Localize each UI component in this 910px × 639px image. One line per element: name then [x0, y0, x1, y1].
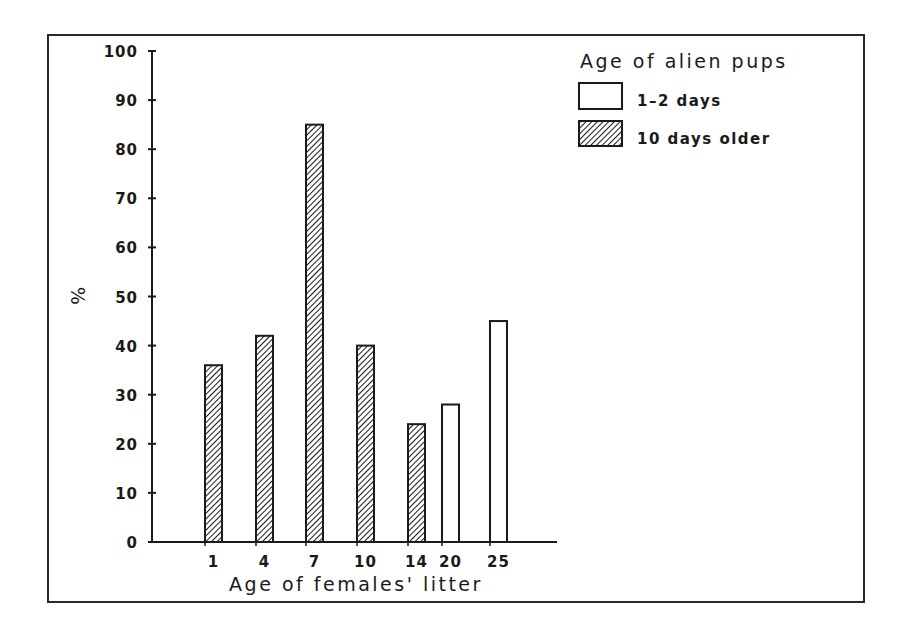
y-tick-label: 10 — [115, 485, 138, 503]
y-tick-label: 40 — [115, 338, 138, 356]
legend-label-hatched: 10 days older — [637, 130, 771, 148]
y-tick-label: 60 — [115, 239, 138, 257]
legend-swatch-hatched — [579, 121, 622, 146]
x-tick-label: 4 — [259, 553, 270, 571]
bar-25 — [490, 321, 507, 542]
x-tick-label: 7 — [309, 553, 320, 571]
y-tick-label: 80 — [115, 141, 138, 159]
legend-label-open: 1–2 days — [637, 92, 722, 110]
bar-1 — [205, 365, 222, 542]
x-tick-label: 1 — [208, 553, 219, 571]
y-tick-label: 70 — [115, 190, 138, 208]
y-tick-label: 90 — [115, 92, 138, 110]
x-axis-title: Age of females' litter — [229, 573, 483, 595]
y-tick-label: 50 — [115, 289, 138, 307]
legend: Age of alien pups 1–2 days 10 days older — [579, 50, 788, 148]
x-tick-label: 25 — [487, 553, 510, 571]
bar-chart: 0102030405060708090100 14710142025 % Age… — [0, 0, 910, 639]
bars — [205, 125, 507, 542]
y-tick-label: 30 — [115, 387, 138, 405]
y-axis-title: % — [67, 287, 89, 308]
x-tick-label: 10 — [354, 553, 377, 571]
x-tick-label: 14 — [405, 553, 428, 571]
legend-title: Age of alien pups — [580, 50, 788, 72]
legend-swatch-open — [579, 83, 622, 109]
y-tick-label: 20 — [115, 436, 138, 454]
bar-4 — [256, 336, 273, 542]
bar-14 — [408, 424, 425, 542]
y-axis: 0102030405060708090100 — [104, 43, 156, 552]
x-axis: 14710142025 — [152, 542, 557, 571]
bar-10 — [357, 346, 374, 542]
y-tick-label: 0 — [127, 534, 138, 552]
bar-7 — [306, 125, 323, 542]
y-tick-label: 100 — [104, 43, 138, 61]
bar-20 — [442, 405, 459, 542]
x-tick-label: 20 — [439, 553, 462, 571]
